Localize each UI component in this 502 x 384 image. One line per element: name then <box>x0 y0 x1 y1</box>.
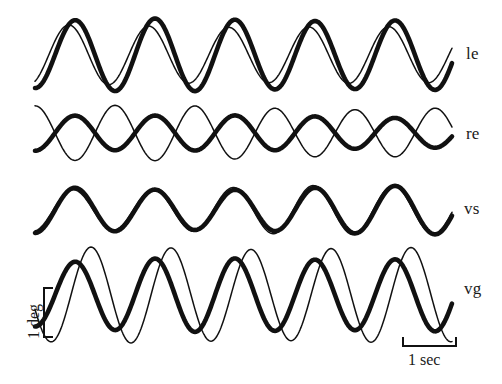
horizontal-scale-bar-label: 1 sec <box>408 352 440 368</box>
vertical-scale-bar-label: 1 deg <box>26 304 42 339</box>
vertical-scale-bar <box>44 288 53 337</box>
scale-bar-graphics <box>0 0 502 384</box>
horizontal-scale-bar <box>403 337 456 346</box>
oscillatory-traces-figure: lerevsvg 1 deg1 sec <box>0 0 502 384</box>
